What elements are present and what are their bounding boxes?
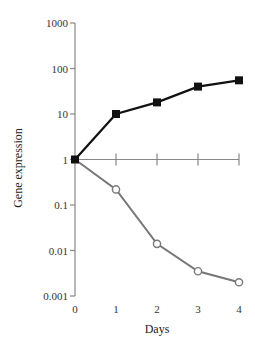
y-tick-label: 0.001 [43, 290, 68, 302]
x-tick-label: 3 [195, 303, 201, 315]
y-tick-label: 1 [63, 154, 69, 166]
y-tick-label: 1000 [46, 17, 69, 29]
y-tick-label: 100 [52, 63, 69, 75]
x-tick-label: 2 [154, 303, 160, 315]
square-marker [112, 110, 120, 118]
y-axis-title: Gene expression [11, 128, 25, 208]
circle-marker [235, 279, 242, 286]
circle-marker [153, 240, 160, 247]
series-line [75, 80, 239, 159]
y-tick-label: 0.1 [54, 199, 68, 211]
gene-expression-chart: 10001001010.10.010.001 01234 Days Gene e… [0, 0, 255, 354]
series-line [75, 160, 239, 283]
y-tick-label: 10 [57, 108, 69, 120]
x-tick-label: 1 [113, 303, 119, 315]
y-tick-labels: 10001001010.10.010.001 [43, 17, 68, 302]
square-marker [153, 98, 161, 106]
square-marker [235, 76, 243, 84]
x-tick-label: 0 [72, 303, 78, 315]
square-marker [71, 156, 79, 164]
data-series [71, 76, 243, 286]
circle-marker [194, 268, 201, 275]
square-marker [194, 83, 202, 91]
x-axis-title: Days [145, 322, 170, 336]
axes [70, 23, 239, 296]
circle-marker [112, 186, 119, 193]
x-tick-label: 4 [236, 303, 242, 315]
x-tick-labels: 01234 [72, 303, 242, 315]
y-tick-label: 0.01 [49, 245, 68, 257]
